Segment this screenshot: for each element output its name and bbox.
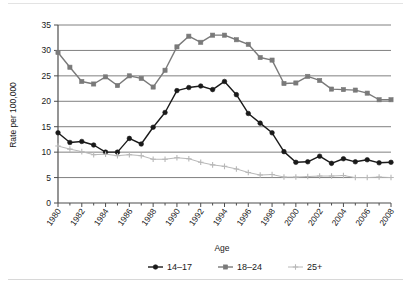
data-point-marker [281,174,287,180]
data-point-marker [91,152,97,158]
data-point-marker [151,125,156,130]
data-point-marker [257,172,263,178]
data-point-marker [56,50,60,54]
data-point-marker [92,82,96,86]
data-point-marker [353,160,358,165]
series-14-17 [56,79,394,165]
data-point-marker [210,87,215,92]
data-point-marker [234,38,238,42]
data-point-marker [270,131,275,136]
data-point-marker [127,136,132,141]
data-point-marker [341,87,345,91]
data-point-marker [186,156,192,162]
data-point-marker [306,74,310,78]
top-divider-rule [8,3,403,4]
x-tick-label: 1996 [234,206,253,227]
data-point-marker [270,58,274,62]
data-point-marker [198,160,204,166]
legend-entry-label[interactable]: 25+ [307,262,322,272]
y-tick-label: 15 [42,122,52,132]
data-point-marker [377,98,381,102]
y-tick-label: 5 [46,173,51,183]
data-point-marker [305,174,311,180]
data-point-marker [329,87,333,91]
data-point-marker [115,83,119,87]
data-point-marker [55,143,61,149]
data-point-marker [388,175,394,181]
legend-group: 14–1718–2425+ [148,262,322,272]
data-point-marker [376,174,382,180]
data-point-marker [258,55,262,59]
data-point-marker [210,162,216,168]
legend-title: Age [214,243,229,253]
line-chart: 05101520253035 1980198219841986198819901… [0,0,411,285]
data-point-marker [389,98,393,102]
x-tick-label: 1998 [258,206,277,227]
data-point-marker [305,160,310,165]
data-point-marker [365,91,369,95]
series-18-24 [56,33,393,102]
chart-figure: 05101520253035 1980198219841986198819901… [0,0,411,285]
data-point-marker [294,160,299,165]
data-point-marker [175,45,179,49]
data-point-marker [353,88,357,92]
data-point-marker [258,121,263,126]
data-point-marker [79,149,85,155]
data-point-marker [234,166,240,172]
data-point-marker [318,78,322,82]
y-tick-label: 35 [42,20,52,30]
data-point-marker [222,164,228,170]
data-point-marker [198,84,203,89]
data-point-marker [245,170,251,176]
data-point-marker [246,42,250,46]
series-line [58,146,391,178]
data-point-marker [91,143,96,148]
data-point-marker [187,85,192,90]
data-point-marker [187,34,191,38]
data-point-marker [293,174,299,180]
legend-entry-label[interactable]: 18–24 [237,262,262,272]
x-tick-label: 2002 [306,206,325,227]
data-point-marker [294,81,298,85]
data-point-marker [246,111,251,116]
series-25- [55,143,394,180]
data-point-marker [56,131,61,136]
data-point-marker [80,79,84,83]
x-tick-label: 1982 [68,206,87,227]
data-point-marker [234,92,239,97]
x-tick-label: 1988 [139,206,158,227]
data-point-marker [150,156,156,162]
data-point-marker [127,74,131,78]
y-axis-ticks-group: 05101520253035 [42,20,58,208]
data-point-marker [175,88,180,93]
data-series-group [55,33,394,180]
legend-entry-label[interactable]: 14–17 [167,262,192,272]
bottom-divider-rule [8,279,403,280]
x-tick-label: 1984 [92,206,111,227]
data-point-marker [103,75,107,79]
x-axis-ticks-group: 1980198219841986198819901992199419961998… [44,203,396,228]
data-point-marker [138,153,144,159]
x-tick-label: 2006 [353,206,372,227]
x-tick-label: 2008 [377,206,396,227]
x-tick-label: 2000 [282,206,301,227]
y-tick-label: 0 [46,198,51,208]
x-tick-label: 1992 [187,206,206,227]
data-point-marker [211,33,215,37]
x-tick-label: 2004 [330,206,349,227]
series-line [58,81,391,163]
y-axis-title: Rate per 100,000 [8,82,18,148]
data-point-marker [139,76,143,80]
data-point-marker [127,152,133,158]
data-point-marker [341,156,346,161]
data-point-marker [353,175,359,181]
data-point-marker [282,149,287,154]
data-point-marker [377,161,382,166]
data-point-marker [317,154,322,159]
data-point-marker [269,172,275,178]
data-point-marker [67,146,73,152]
y-tick-label: 10 [42,147,52,157]
data-point-marker [364,175,370,181]
y-tick-label: 20 [42,96,52,106]
x-tick-label: 1990 [163,206,182,227]
